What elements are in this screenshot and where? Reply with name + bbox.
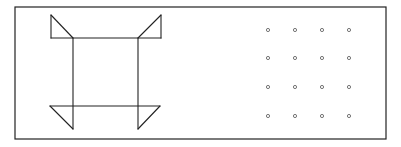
grid-dot [266,56,269,59]
grid-dot [347,56,350,59]
grid-dot [293,85,296,88]
grid-dot [293,28,296,31]
grid-dot [266,114,269,117]
grid-dot [266,85,269,88]
grid-dot [320,85,323,88]
grid-dot [266,28,269,31]
grid-dot [293,56,296,59]
grid-dot [293,114,296,117]
shape-line [138,15,161,38]
shape-line [51,15,73,38]
grid-dot [347,114,350,117]
dot-grid [266,28,350,117]
grid-dot [320,28,323,31]
square-with-triangle-flaps [50,15,161,129]
grid-dot [347,85,350,88]
shape-line [138,106,160,129]
grid-dot [347,28,350,31]
figure-svg [0,0,401,147]
grid-dot [320,56,323,59]
figure-frame [15,7,386,139]
grid-dot [320,114,323,117]
puzzle-figure [0,0,401,147]
shape-line [50,106,73,129]
